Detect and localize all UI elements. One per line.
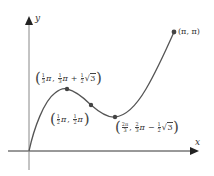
end-point-dot bbox=[172, 30, 177, 35]
min-point-label: ( 2π3 , 23 π − 12 √3 ) bbox=[115, 120, 179, 135]
close-paren: ) bbox=[84, 112, 90, 127]
sqrt-icon: √3 bbox=[85, 75, 96, 83]
y-axis-label: y bbox=[35, 14, 40, 23]
close-paren: ) bbox=[173, 120, 179, 135]
sqrt-icon: √3 bbox=[162, 124, 173, 132]
max-point-dot bbox=[65, 87, 69, 91]
fraction: 2π3 bbox=[122, 122, 128, 134]
fraction: 13 bbox=[58, 73, 61, 85]
end-point-label: (π, π) bbox=[178, 28, 200, 36]
fraction: 12 bbox=[57, 114, 60, 126]
fraction: 12 bbox=[81, 73, 84, 85]
open-paren: ( bbox=[35, 71, 41, 86]
fraction: 13 bbox=[42, 73, 45, 85]
fraction: 23 bbox=[135, 122, 138, 134]
inflection-point-dot bbox=[89, 103, 93, 107]
x-axis-arrow-icon bbox=[190, 147, 199, 155]
fraction: 12 bbox=[158, 122, 161, 134]
open-paren: ( bbox=[115, 120, 121, 135]
max-point-label: ( 13 π, 13 π + 12 √3 ) bbox=[35, 71, 102, 86]
y-axis-arrow-icon bbox=[25, 16, 33, 25]
x-axis-label: x bbox=[195, 138, 200, 147]
fraction: 12 bbox=[73, 114, 76, 126]
close-paren: ) bbox=[96, 71, 102, 86]
open-paren: ( bbox=[50, 112, 56, 127]
inflection-point-label: ( 12 π, 12 π ) bbox=[50, 112, 90, 127]
